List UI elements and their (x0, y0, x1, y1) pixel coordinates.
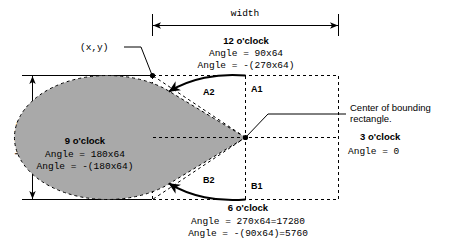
center-callout: Center of bounding rectangle. (243, 102, 431, 140)
width-dimension: width (153, 8, 339, 36)
origin-point-marker (150, 73, 155, 78)
nine-oclock-title: 9 o'clock (65, 135, 106, 146)
arc-b2-direction (169, 183, 246, 200)
nine-oclock-line2: Angle = -(180x64) (37, 161, 134, 172)
center-callout-line2: rectangle. (350, 113, 392, 124)
three-oclock-line1: Angle = 0 (348, 146, 400, 157)
twelve-oclock-line2: Angle = -(270x64) (198, 60, 295, 71)
six-oclock-line2: Angle = -(90x64)=5760 (188, 228, 308, 239)
quadrant-label-a1: A1 (251, 84, 263, 94)
quadrant-label-b2: B2 (203, 175, 215, 185)
nine-oclock-line1: Angle = 180x64 (45, 149, 125, 160)
center-callout-line1: Center of bounding (350, 102, 431, 113)
six-oclock-title: 6 o'clock (228, 202, 269, 213)
twelve-oclock-title: 12 o'clock (223, 35, 269, 46)
origin-label: (x,y) (80, 42, 109, 53)
label-block-six-oclock: 6 o'clock Angle = 270x64=17280 Angle = -… (188, 202, 308, 239)
center-leader-line (246, 114, 347, 138)
origin-callout: (x,y) (80, 42, 155, 78)
three-oclock-title: 3 o'clock (360, 131, 401, 142)
quadrant-label-a2: A2 (203, 87, 215, 97)
label-block-twelve-oclock: 12 o'clock Angle = 90x64 Angle = -(270x6… (198, 35, 295, 71)
diagram-canvas: width height A1 A2 B1 (0, 0, 461, 243)
arc-angle-diagram: width height A1 A2 B1 (0, 0, 461, 243)
label-block-three-oclock: 3 o'clock Angle = 0 (348, 131, 401, 157)
quadrant-label-b1: B1 (251, 181, 263, 191)
origin-leader-line (124, 47, 152, 75)
twelve-oclock-line1: Angle = 90x64 (209, 48, 283, 59)
six-oclock-line1: Angle = 270x64=17280 (191, 216, 305, 227)
width-label: width (231, 8, 260, 19)
